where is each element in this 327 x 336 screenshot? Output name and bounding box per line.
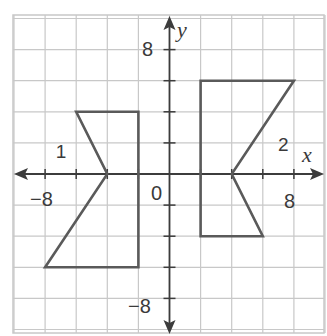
axes (14, 16, 324, 334)
figure-1-polygon (45, 112, 138, 267)
coordinate-plane: x y 0 −8 8 8 −8 1 2 (0, 0, 327, 336)
y-tick-label-neg8: −8 (128, 295, 151, 317)
y-axis-label: y (175, 17, 187, 42)
labels: x y 0 −8 8 8 −8 1 2 (30, 17, 312, 317)
figure-2-label: 2 (278, 134, 289, 155)
figure-1-label: 1 (56, 141, 67, 162)
figure-2-polygon (201, 81, 294, 237)
origin-label: 0 (151, 182, 162, 204)
x-tick-label-neg8: −8 (30, 188, 53, 210)
x-tick-label-8: 8 (284, 190, 295, 212)
x-axis-label: x (301, 142, 312, 167)
y-tick-label-8: 8 (142, 38, 153, 60)
